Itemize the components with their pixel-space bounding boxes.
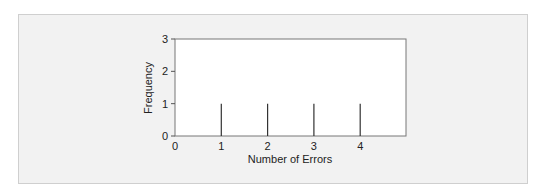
plot-area	[175, 39, 406, 136]
y-tick-label: 1	[162, 98, 168, 110]
x-axis-title: Number of Errors	[248, 153, 333, 165]
x-axis-ticks: 01234	[172, 140, 363, 152]
y-axis-title: Frequency	[142, 62, 154, 114]
x-tick-label: 3	[311, 140, 317, 152]
x-tick-label: 0	[172, 140, 178, 152]
x-tick-label: 2	[265, 140, 271, 152]
y-tick-label: 0	[162, 130, 168, 142]
frequency-chart: 0123 01234 Number of Errors Frequency	[0, 0, 542, 193]
y-tick-label: 2	[162, 65, 168, 77]
y-tick-label: 3	[162, 33, 168, 45]
x-tick-label: 1	[218, 140, 224, 152]
x-tick-label: 4	[357, 140, 363, 152]
y-axis-ticks: 0123	[162, 33, 175, 142]
